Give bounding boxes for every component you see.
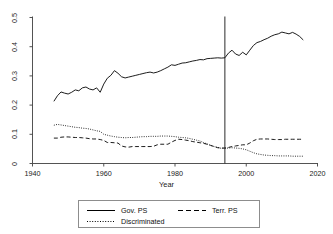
legend-item-discriminated[interactable]: Discriminated [86, 216, 165, 227]
legend-item-gov-ps[interactable]: Gov. PS [86, 205, 147, 216]
chart-figure: 0 0.1 0.2 0.3 0.4 0.5 1940 1960 1980 200… [0, 0, 333, 234]
ytick-label-5: 0.5 [10, 9, 20, 27]
series-line-gov-ps [54, 32, 303, 101]
legend-label-discriminated: Discriminated [121, 217, 165, 226]
xtick-label-4: 2020 [298, 169, 333, 178]
ytick-label-1: 0.1 [10, 125, 20, 143]
xtick-label-0: 1940 [13, 169, 53, 178]
legend-key-solid-icon [86, 206, 116, 215]
series-line-terr-ps [54, 137, 303, 148]
plot-area [0, 0, 333, 234]
xaxis-title: Year [0, 180, 333, 189]
chart-legend: Gov. PS Terr. PS Discriminated [78, 200, 260, 228]
legend-label-terr-ps: Terr. PS [212, 206, 238, 215]
ytick-label-2: 0.2 [10, 96, 20, 114]
legend-label-gov-ps: Gov. PS [121, 206, 147, 215]
series-line-discriminated [54, 124, 303, 156]
xtick-label-3: 2000 [226, 169, 266, 178]
xtick-label-2: 1980 [155, 169, 195, 178]
legend-key-dotted-icon [86, 217, 116, 226]
chart-canvas [0, 0, 333, 234]
legend-key-dashed-icon [177, 206, 207, 215]
ytick-label-4: 0.4 [10, 38, 20, 56]
xtick-label-1: 1960 [84, 169, 124, 178]
legend-item-terr-ps[interactable]: Terr. PS [177, 205, 238, 216]
ytick-label-3: 0.3 [10, 67, 20, 85]
